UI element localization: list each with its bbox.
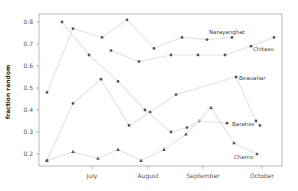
dot-marker-icon (61, 21, 64, 24)
dot-marker-icon (273, 36, 276, 39)
series-label: Barahse (232, 121, 255, 127)
series-line (47, 20, 232, 93)
series-chitasu (110, 36, 276, 63)
dot-marker-icon (224, 54, 227, 57)
dot-marker-icon (117, 80, 120, 83)
dot-marker-icon (250, 45, 253, 48)
series-line (47, 77, 260, 161)
y-tick-label: 0.3 (23, 128, 33, 135)
series-label: Beauahar (239, 75, 266, 81)
y-tick-label: 0.7 (23, 40, 33, 47)
dot-marker-icon (197, 54, 200, 57)
dot-marker-icon (186, 126, 189, 129)
y-tick-label: 0.5 (23, 84, 33, 91)
y-tick-label: 0.8 (23, 18, 33, 25)
triangle-marker-icon (116, 148, 120, 151)
dot-marker-icon (144, 109, 147, 112)
dot-marker-icon (46, 91, 49, 94)
dot-marker-icon (100, 78, 103, 81)
y-axis: 0.20.30.40.50.60.70.8 (23, 18, 39, 157)
y-tick-label: 0.2 (23, 150, 33, 157)
dot-marker-icon (153, 47, 156, 50)
dot-marker-icon (72, 27, 75, 30)
y-tick-label: 0.4 (23, 106, 33, 113)
x-tick-label: October (250, 172, 275, 179)
dot-marker-icon (226, 122, 229, 125)
dot-marker-icon (206, 38, 209, 41)
y-tick-label: 0.6 (23, 62, 33, 69)
dot-marker-icon (170, 131, 173, 134)
x-axis: JulyAugustSeptemberOctober (86, 166, 275, 180)
triangle-marker-icon (71, 150, 75, 153)
dot-marker-icon (88, 54, 91, 57)
dot-marker-icon (235, 76, 238, 79)
dot-marker-icon (231, 36, 234, 39)
line-chart: 0.20.30.40.50.60.70.8 JulyAugustSeptembe… (0, 0, 298, 191)
dot-marker-icon (128, 124, 131, 127)
dot-marker-icon (175, 93, 178, 96)
x-tick-label: September (186, 172, 220, 180)
dot-marker-icon (72, 102, 75, 105)
dot-marker-icon (170, 54, 173, 57)
series-label: Narayanghat (209, 29, 246, 36)
annotations: NarayanghatChitasuBeauaharBarahseCharne (209, 29, 274, 160)
y-axis-title: fraction random (4, 65, 11, 120)
series-label: Charne (234, 154, 254, 160)
series-label: Chitasu (253, 46, 274, 52)
x-tick-label: July (86, 172, 98, 180)
dot-marker-icon (101, 36, 104, 39)
series-narayanghat (46, 18, 234, 93)
plot-frame (39, 14, 282, 166)
dot-marker-icon (138, 60, 141, 63)
dot-marker-icon (259, 124, 262, 127)
triangle-marker-icon (209, 106, 213, 109)
dot-marker-icon (110, 49, 113, 52)
dot-marker-icon (255, 120, 258, 123)
series-layer (45, 18, 275, 162)
dot-marker-icon (126, 18, 129, 21)
series-charne (45, 106, 259, 162)
series-line (111, 37, 274, 61)
series-beauahar (46, 76, 262, 162)
dot-marker-icon (181, 36, 184, 39)
x-tick-label: August (138, 172, 160, 180)
